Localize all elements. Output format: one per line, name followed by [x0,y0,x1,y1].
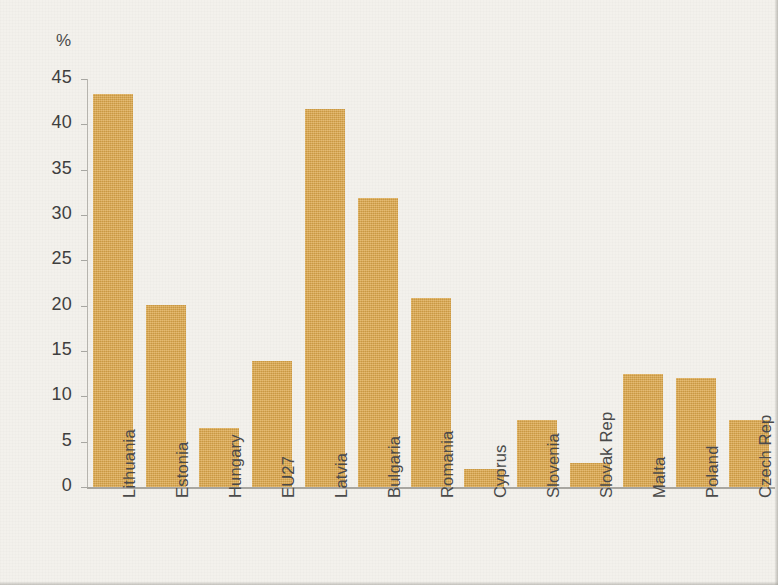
y-axis-tick-label: 30 [32,203,72,224]
y-axis-tick-label: 35 [32,158,72,179]
y-axis-tick-label: 15 [32,339,72,360]
y-axis-tick-label: 10 [32,384,72,405]
x-axis-tick-label: Poland [703,445,722,498]
y-axis-tick-label: 25 [32,248,72,269]
x-axis-tick-label: EU27 [279,456,298,498]
x-axis-tick-label: Estonia [173,442,192,498]
bar [305,109,345,487]
x-axis-tick-label: Slovak Rep [597,412,616,498]
x-axis-tick-label: Bulgaria [385,436,404,498]
y-axis-tick-label: 40 [32,112,72,133]
y-axis-tick-label: 20 [32,294,72,315]
bar [93,94,133,487]
y-axis-tick-label: 45 [32,67,72,88]
y-axis-unit-label: % [56,31,71,51]
x-axis-tick-label: Romania [438,431,457,498]
x-axis-tick-label: Slovenia [544,433,563,498]
x-axis-tick-label: Lithuania [120,429,139,498]
bar-chart: % 454035302520151050 LithuaniaEstoniaHun… [0,0,778,585]
y-axis-tick-label: 5 [32,430,72,451]
x-axis-tick-label: Hungary [226,434,245,498]
y-axis-tick-label: 0 [32,475,72,496]
x-axis-tick-label: Latvia [332,453,351,498]
x-axis-tick-label: Cyprus [491,445,510,498]
x-axis-tick-label: Malta [650,457,669,498]
y-axis-line [87,79,88,488]
x-axis-tick-label: Czech Rep [756,415,775,498]
